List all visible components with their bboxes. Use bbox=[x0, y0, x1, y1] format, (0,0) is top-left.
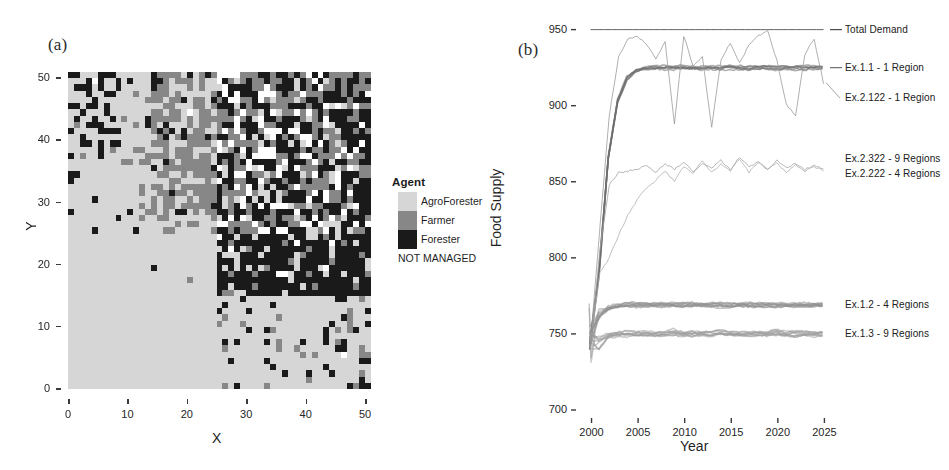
chart-series-label: Ex.1.1 - 1 Region bbox=[845, 62, 924, 73]
chart-series-line bbox=[591, 30, 824, 341]
panel-a-x-tick-mark bbox=[246, 399, 248, 404]
chart-series bbox=[591, 158, 824, 346]
panel-a-y-tick-mark bbox=[56, 139, 61, 141]
panel-a-x-tick-label: 40 bbox=[291, 408, 321, 420]
chart-series-label: Ex.1.3 - 9 Regions bbox=[845, 328, 929, 339]
legend-items: AgroForesterFarmerForesterNOT MANAGED bbox=[392, 192, 472, 268]
chart-series bbox=[591, 159, 824, 342]
panel-a-x-tick-label: 50 bbox=[350, 408, 380, 420]
legend-item-label: NOT MANAGED bbox=[398, 252, 476, 264]
chart-series-label: Ex.2.122 - 1 Region bbox=[845, 92, 935, 103]
chart-y-tick-label: 850 bbox=[535, 175, 567, 187]
chart-series-line bbox=[591, 159, 824, 342]
chart-series-run bbox=[590, 328, 823, 347]
chart-x-tick-label: 2000 bbox=[574, 426, 610, 438]
legend-item: Farmer bbox=[392, 211, 472, 230]
panel-a-y-tick-mark bbox=[56, 388, 61, 390]
panel-a-y-tick-label: 30 bbox=[26, 196, 50, 208]
panel-a-letter: (a) bbox=[48, 35, 67, 55]
panel-a-y-tick-mark bbox=[56, 264, 61, 266]
legend-item: AgroForester bbox=[392, 192, 472, 211]
chart-series-label: Total Demand bbox=[845, 24, 908, 35]
panel-b-x-axis-label: Year bbox=[680, 438, 708, 454]
panel-a-x-tick-label: 30 bbox=[231, 408, 261, 420]
legend-item-label: AgroForester bbox=[421, 195, 482, 207]
panel-a-y-tick-label: 0 bbox=[26, 382, 50, 394]
chart-x-tick-label: 2010 bbox=[667, 426, 703, 438]
legend-item: Forester bbox=[392, 230, 472, 249]
agent-raster-map bbox=[68, 72, 371, 389]
chart-series-group bbox=[589, 30, 823, 363]
chart-series-label: Ex.2.222 - 4 Regions bbox=[845, 168, 940, 179]
chart-series-run bbox=[590, 304, 823, 348]
panel-b-y-axis-label: Food Supply bbox=[488, 169, 504, 248]
panel-b: (b) 700750800850900950200020052010201520… bbox=[475, 0, 949, 470]
chart-y-tick-label: 900 bbox=[535, 99, 567, 111]
chart-x-tick-label: 2015 bbox=[713, 426, 749, 438]
panel-a-x-tick-label: 10 bbox=[112, 408, 142, 420]
panel-a-x-tick-mark bbox=[68, 399, 70, 404]
legend-item: NOT MANAGED bbox=[392, 249, 472, 268]
chart-series-run bbox=[590, 67, 823, 343]
chart-x-tick-label: 2020 bbox=[760, 426, 796, 438]
agent-raster-canvas bbox=[68, 72, 371, 389]
chart-x-tick-label: 2005 bbox=[620, 426, 656, 438]
panel-a-x-tick-label: 0 bbox=[53, 408, 83, 420]
chart-series-label: Ex.2.322 - 9 Regions bbox=[845, 153, 940, 164]
panel-a-y-tick-mark bbox=[56, 326, 61, 328]
chart-y-tick-label: 950 bbox=[535, 23, 567, 35]
legend-swatch bbox=[398, 211, 417, 230]
legend-title: Agent bbox=[392, 176, 472, 188]
panel-a: (a) 01020304050 01020304050 Y X Agent Ag… bbox=[0, 0, 475, 470]
panel-a-x-tick-mark bbox=[127, 399, 129, 404]
panel-a-y-tick-label: 40 bbox=[26, 133, 50, 145]
legend-item-label: Forester bbox=[421, 233, 460, 245]
panel-a-y-tick-label: 50 bbox=[26, 71, 50, 83]
chart-series-line bbox=[591, 158, 824, 346]
panel-a-x-tick-mark bbox=[365, 399, 367, 404]
panel-a-x-axis-label: X bbox=[212, 430, 221, 446]
chart-series-run bbox=[590, 304, 823, 326]
figure-root: (a) 01020304050 01020304050 Y X Agent Ag… bbox=[0, 0, 949, 470]
legend-swatch bbox=[398, 192, 417, 211]
panel-a-x-tick-mark bbox=[187, 399, 189, 404]
legend-swatch bbox=[398, 230, 417, 249]
chart-label-connector bbox=[826, 83, 840, 98]
chart-series bbox=[589, 308, 822, 363]
panel-a-y-tick-label: 20 bbox=[26, 258, 50, 270]
panel-a-y-tick-label: 10 bbox=[26, 320, 50, 332]
agent-legend: Agent AgroForesterFarmerForesterNOT MANA… bbox=[392, 176, 472, 268]
panel-a-x-tick-label: 20 bbox=[172, 408, 202, 420]
chart-y-tick-label: 700 bbox=[535, 403, 567, 415]
chart-series-run bbox=[590, 305, 823, 334]
legend-item-label: Farmer bbox=[421, 214, 455, 226]
panel-a-y-axis-label: Y bbox=[23, 221, 39, 230]
chart-series-run bbox=[590, 302, 823, 347]
chart-y-tick-label: 750 bbox=[535, 327, 567, 339]
panel-a-y-tick-mark bbox=[56, 77, 61, 79]
chart-y-tick-label: 800 bbox=[535, 251, 567, 263]
chart-series-label: Ex.1.2 - 4 Regions bbox=[845, 299, 929, 310]
chart-x-tick-label: 2025 bbox=[806, 426, 842, 438]
panel-a-y-tick-mark bbox=[56, 202, 61, 204]
chart-series bbox=[591, 30, 824, 341]
panel-a-x-tick-mark bbox=[306, 399, 308, 404]
